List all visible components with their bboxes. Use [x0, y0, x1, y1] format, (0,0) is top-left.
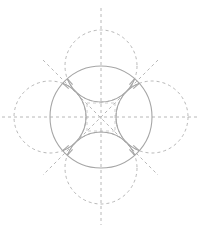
geometry-diagram	[0, 0, 198, 227]
construction-axes	[2, 8, 197, 225]
